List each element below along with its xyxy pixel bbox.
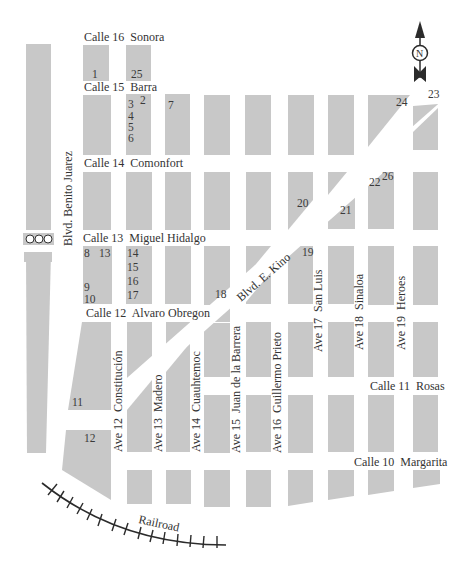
street-label-calle11: Calle 11 Rosas: [370, 379, 445, 393]
street-label-calle14: Calle 14 Comonfort: [84, 156, 184, 170]
marker-23[interactable]: 23: [428, 88, 440, 100]
marker-15[interactable]: 15: [127, 261, 139, 273]
street-label-calle12: Calle 12 Alvaro Obregon: [86, 306, 210, 320]
street-label-ave19: Ave 19 Heroes: [394, 276, 408, 350]
street-label-calle13: Calle 13 Miguel Hidalgo: [83, 231, 206, 245]
street-label-benito-juarez: Blvd. Benito Juarez: [61, 151, 75, 246]
street-label-ave17: Ave 17 San Luis: [311, 269, 325, 352]
marker-2[interactable]: 2: [140, 94, 146, 106]
street-label-calle10: Calle 10 Margarita: [354, 455, 448, 469]
marker-25[interactable]: 25: [131, 68, 143, 80]
left-strip-blocks: [24, 44, 52, 453]
marker-22[interactable]: 22: [369, 176, 381, 188]
culvert-icon: [23, 233, 54, 245]
street-label-ave14: Ave 14 Cuauhtemoc: [189, 351, 203, 452]
marker-24[interactable]: 24: [396, 96, 408, 108]
marker-14[interactable]: 14: [127, 247, 139, 259]
street-label-ave15: Ave 15 Juan de la Barrera: [229, 325, 243, 453]
marker-6[interactable]: 6: [128, 132, 134, 144]
street-label-ave12: Ave 12 Constitución: [111, 351, 125, 452]
marker-9[interactable]: 9: [84, 281, 90, 293]
marker-26[interactable]: 26: [382, 170, 394, 182]
blocks-row-2: [83, 94, 438, 155]
marker-7[interactable]: 7: [168, 99, 174, 111]
marker-19[interactable]: 19: [302, 246, 314, 258]
marker-1[interactable]: 1: [92, 68, 98, 80]
blocks-row-7: [127, 470, 440, 507]
street-label-calle15: Calle 15 Barra: [84, 80, 158, 94]
marker-17[interactable]: 17: [127, 289, 139, 301]
street-label-ave13: Ave 13 Madero: [151, 375, 165, 452]
street-label-ave16: Ave 16 Guillermo Prieto: [270, 332, 284, 453]
marker-16[interactable]: 16: [127, 275, 139, 287]
marker-18[interactable]: 18: [215, 288, 227, 300]
north-label: N: [416, 48, 423, 59]
marker-3[interactable]: 3: [128, 98, 134, 110]
marker-11[interactable]: 11: [72, 396, 83, 408]
marker-21[interactable]: 21: [340, 204, 352, 216]
marker-8[interactable]: 8: [84, 247, 90, 259]
marker-13[interactable]: 13: [99, 247, 111, 259]
railroad-label: Railroad: [137, 512, 180, 534]
street-label-calle16: Calle 16 Sonora: [84, 30, 165, 44]
street-map: Calle 16 Sonora Calle 15 Barra Calle 14 …: [0, 0, 465, 586]
marker-10[interactable]: 10: [84, 293, 96, 305]
street-label-ave18: Ave 18 Sinaloa: [352, 273, 366, 350]
marker-12[interactable]: 12: [84, 432, 96, 444]
marker-20[interactable]: 20: [297, 197, 309, 209]
